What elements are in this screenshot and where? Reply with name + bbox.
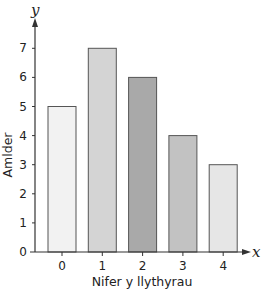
- x-tick-label: 2: [139, 259, 147, 273]
- bar-1: [88, 48, 116, 252]
- x-axis-variable: x: [252, 243, 261, 261]
- bars: [48, 48, 237, 252]
- bar-chart: 01234567 01234 y x Nifer y llythyrau Aml…: [0, 0, 261, 291]
- y-tick-label: 6: [19, 70, 27, 84]
- y-tick-label: 5: [19, 100, 27, 114]
- y-tick-label: 0: [19, 245, 27, 259]
- bar-0: [48, 107, 76, 253]
- y-tick-label: 2: [19, 187, 27, 201]
- y-axis-arrow-icon: [32, 18, 38, 27]
- y-axis-title: Amlder: [0, 132, 15, 178]
- y-tick-label: 1: [19, 216, 27, 230]
- x-tick-label: 0: [58, 259, 66, 273]
- x-axis-ticks: 01234: [58, 252, 227, 273]
- bar-2: [129, 77, 157, 252]
- x-axis-title: Nifer y llythyrau: [92, 274, 193, 289]
- bar-4: [209, 165, 237, 252]
- bar-3: [169, 136, 197, 252]
- x-tick-label: 3: [179, 259, 187, 273]
- y-tick-label: 7: [19, 41, 27, 55]
- y-tick-label: 4: [19, 129, 27, 143]
- x-tick-label: 4: [219, 259, 227, 273]
- x-tick-label: 1: [98, 259, 106, 273]
- x-axis-arrow-icon: [242, 249, 251, 255]
- y-axis-variable: y: [30, 1, 40, 19]
- y-tick-label: 3: [19, 158, 27, 172]
- y-axis-ticks: 01234567: [19, 41, 35, 259]
